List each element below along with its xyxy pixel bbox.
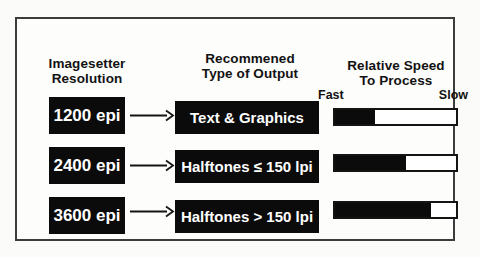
figure-frame: Imagesetter Resolution Recommened Type o…: [15, 17, 455, 241]
output-box: Halftones > 150 lpi: [175, 200, 319, 233]
header-line: Type of Output: [175, 66, 325, 81]
fast-label: Fast: [318, 88, 344, 102]
column-header-resolution: Imagesetter Resolution: [35, 56, 139, 86]
resolution-box: 3600 epi: [49, 197, 125, 234]
header-line: To Process: [321, 73, 471, 88]
output-box: Text & Graphics: [175, 101, 319, 134]
speed-bar-fill: [335, 156, 406, 170]
slow-label: Slow: [439, 88, 468, 102]
column-header-speed: Relative Speed To Process: [321, 58, 471, 88]
resolution-box: 2400 epi: [49, 147, 125, 184]
speed-scale-labels: Fast Slow: [318, 88, 468, 102]
arrow-right-icon: [129, 159, 175, 172]
speed-bar: [333, 201, 458, 219]
header-line: Relative Speed: [321, 58, 471, 73]
arrow-right-icon: [129, 205, 175, 218]
header-line: Resolution: [35, 71, 139, 86]
speed-bar-fill: [335, 110, 375, 124]
column-header-output: Recommened Type of Output: [175, 51, 325, 81]
header-line: Imagesetter: [35, 56, 139, 71]
arrow-right-icon: [129, 109, 175, 122]
resolution-box: 1200 epi: [49, 97, 125, 134]
output-box: Halftones ≤ 150 lpi: [175, 150, 319, 183]
header-line: Recommened: [175, 51, 325, 66]
speed-bar: [333, 154, 458, 172]
speed-bar-fill: [335, 203, 431, 217]
speed-bar: [333, 108, 458, 126]
figure-canvas: Imagesetter Resolution Recommened Type o…: [0, 0, 480, 257]
